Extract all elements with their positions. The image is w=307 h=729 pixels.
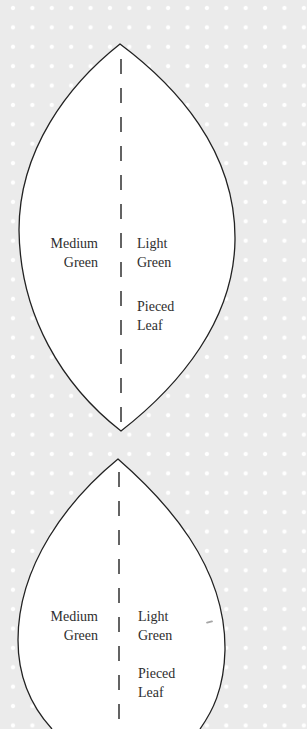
leaf-1-piece-label-line-1: Pieced	[137, 297, 174, 316]
leaf-1-right-label-line-1: Light	[137, 234, 171, 253]
leaf-1-left-label-line-2: Green	[18, 253, 98, 272]
leaf-2-outline	[18, 459, 225, 729]
leaf-1-left-label-line-1: Medium	[18, 234, 98, 253]
leaf-1-piece-label: Pieced Leaf	[137, 297, 174, 335]
leaf-1-piece-label-line-2: Leaf	[137, 316, 174, 335]
leaf-2-left-label-line-2: Green	[18, 626, 98, 645]
leaf-2-piece-label-line-2: Leaf	[138, 683, 175, 702]
leaf-1-right-color-label: Light Green	[137, 234, 171, 272]
leaf-2-piece-label: Pieced Leaf	[138, 664, 175, 702]
leaf-2-piece-label-line-1: Pieced	[138, 664, 175, 683]
leaf-1-left-color-label: Medium Green	[18, 234, 98, 272]
quilt-pattern-page: Medium Green Light Green Pieced Leaf Med…	[0, 0, 249, 729]
leaf-2-left-color-label: Medium Green	[18, 607, 98, 645]
leaf-2-right-color-label: Light Green	[138, 607, 172, 645]
leaf-1-right-label-line-2: Green	[137, 253, 171, 272]
leaf-template-2	[18, 459, 225, 729]
leaf-2-right-label-line-1: Light	[138, 607, 172, 626]
leaf-2-left-label-line-1: Medium	[18, 607, 98, 626]
leaf-2-right-label-line-2: Green	[138, 626, 172, 645]
